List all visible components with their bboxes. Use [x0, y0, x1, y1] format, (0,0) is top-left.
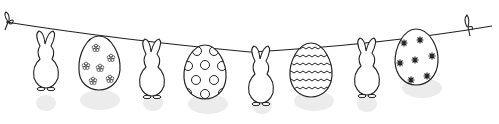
bow-right-icon: [465, 15, 473, 36]
egg-zigzag: [288, 43, 333, 97]
egg-flowers: [79, 36, 120, 90]
bunny-1: [34, 31, 59, 91]
easter-garland-illustration: [0, 0, 499, 124]
bunny-2: [140, 39, 165, 99]
garland-drawing: [0, 0, 499, 124]
egg-dots: [183, 45, 228, 99]
bunny-4: [355, 38, 380, 98]
bunny-3: [249, 46, 274, 106]
bow-left-icon: [5, 12, 13, 30]
egg-stars: [395, 29, 438, 85]
